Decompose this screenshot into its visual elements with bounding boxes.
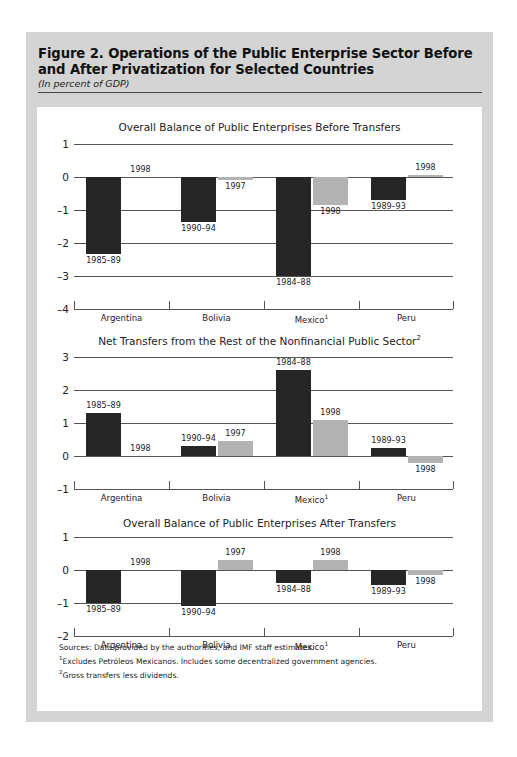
category-label: Argentina	[74, 493, 169, 503]
category-label: Mexico1	[264, 313, 359, 325]
x-axis-divider	[74, 481, 75, 489]
figure-title: Figure 2. Operations of the Public Enter…	[38, 46, 483, 77]
chart-container: Overall Balance of Public Enterprises Be…	[37, 107, 482, 711]
bar-period-label: 1985–89	[79, 401, 129, 410]
y-tick-label: 0	[55, 564, 69, 576]
category-label: Mexico1	[264, 493, 359, 505]
bar-bolivia-after	[218, 441, 253, 456]
gridline	[74, 603, 453, 604]
x-axis	[74, 489, 453, 490]
x-axis-divider	[74, 301, 75, 309]
x-axis-divider	[453, 628, 454, 636]
figure-panel: Figure 2. Operations of the Public Enter…	[26, 32, 493, 722]
bar-period-label: 1990–94	[174, 224, 224, 233]
bar-period-label: 1998	[401, 577, 451, 586]
bar-period-label: 1985–89	[79, 605, 129, 614]
bar-period-label: 1998	[116, 558, 166, 567]
gridline	[74, 537, 453, 538]
bar-peru-before	[371, 448, 406, 456]
bar-mexico-after	[313, 420, 348, 456]
gridline	[74, 456, 453, 457]
footnote-1: 1Excludes Petróleos Mexicanos. Includes …	[59, 653, 377, 667]
x-axis	[74, 309, 453, 310]
bar-period-label: 1998	[306, 408, 356, 417]
gridline	[74, 276, 453, 277]
chart-title: Overall Balance of Public Enterprises Be…	[37, 121, 482, 133]
bar-period-label: 1998	[306, 207, 356, 216]
y-tick-label: 2	[55, 384, 69, 396]
gridline	[74, 357, 453, 358]
bar-period-label: 1998	[306, 548, 356, 557]
x-axis-divider	[264, 481, 265, 489]
bar-period-label: 1998	[116, 444, 166, 453]
y-tick-label: 0	[55, 171, 69, 183]
bar-period-label: 1998	[401, 465, 451, 474]
y-tick-label: –1	[55, 483, 69, 495]
bar-period-label: 1997	[211, 548, 261, 557]
bar-bolivia-before	[181, 446, 216, 456]
bar-period-label: 1997	[211, 429, 261, 438]
x-axis-divider	[359, 481, 360, 489]
x-axis-divider	[169, 628, 170, 636]
bar-period-label: 1997	[211, 182, 261, 191]
bar-peru-after	[408, 570, 443, 575]
category-label: Bolivia	[169, 493, 264, 503]
bar-period-label: 1998	[401, 163, 451, 172]
bar-period-label: 1984–88	[269, 278, 319, 287]
bar-peru-before	[371, 177, 406, 200]
bar-period-label: 1998	[116, 165, 166, 174]
y-tick-label: –2	[55, 237, 69, 249]
bar-period-label: 1989–93	[364, 587, 414, 596]
x-axis-divider	[453, 301, 454, 309]
bar-peru-after	[408, 456, 443, 463]
y-tick-label: 1	[55, 138, 69, 150]
y-tick-label: –3	[55, 270, 69, 282]
figure-notes: Sources: Data provided by the authoritie…	[59, 642, 377, 680]
gridline	[74, 144, 453, 145]
x-axis-divider	[264, 301, 265, 309]
y-tick-label: –1	[55, 597, 69, 609]
bar-bolivia-before	[181, 570, 216, 606]
bar-period-label: 1989–93	[364, 436, 414, 445]
bar-mexico-after	[313, 560, 348, 570]
bar-period-label: 1984–88	[269, 585, 319, 594]
title-divider	[38, 92, 482, 93]
category-label: Argentina	[74, 313, 169, 323]
category-label: Bolivia	[169, 313, 264, 323]
bar-mexico-before	[276, 177, 311, 276]
gridline	[74, 390, 453, 391]
y-tick-label: –1	[55, 204, 69, 216]
bar-mexico-before	[276, 570, 311, 583]
figure-subtitle: (In percent of GDP)	[38, 78, 129, 89]
x-axis-divider	[169, 481, 170, 489]
bar-period-label: 1990–94	[174, 608, 224, 617]
footnote-2: 2Gross transfers less dividends.	[59, 667, 377, 681]
x-axis-divider	[74, 628, 75, 636]
x-axis	[74, 636, 453, 637]
sources-note: Sources: Data provided by the authoritie…	[59, 642, 377, 653]
bar-mexico-after	[313, 177, 348, 205]
category-label: Peru	[359, 493, 454, 503]
category-label: Peru	[359, 313, 454, 323]
bar-bolivia-after	[218, 560, 253, 570]
gridline	[74, 243, 453, 244]
y-tick-label: –4	[55, 303, 69, 315]
bar-peru-after	[408, 175, 443, 177]
x-axis-divider	[169, 301, 170, 309]
y-tick-label: 3	[55, 351, 69, 363]
bar-argentina-before	[86, 570, 121, 603]
bar-period-label: 1985–89	[79, 256, 129, 265]
chart-title: Net Transfers from the Rest of the Nonfi…	[37, 334, 482, 347]
bar-bolivia-after	[218, 177, 253, 180]
x-axis-divider	[359, 628, 360, 636]
y-tick-label: 1	[55, 417, 69, 429]
bar-period-label: 1989–93	[364, 202, 414, 211]
gridline	[74, 423, 453, 424]
y-tick-label: 0	[55, 450, 69, 462]
x-axis-divider	[453, 481, 454, 489]
bar-argentina-before	[86, 177, 121, 254]
x-axis-divider	[264, 628, 265, 636]
y-tick-label: –2	[55, 630, 69, 642]
y-tick-label: 1	[55, 531, 69, 543]
chart-title: Overall Balance of Public Enterprises Af…	[37, 517, 482, 529]
